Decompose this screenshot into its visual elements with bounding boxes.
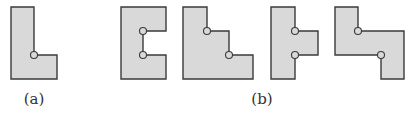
diagram-canvas (0, 0, 411, 119)
hinge-icon (140, 28, 147, 35)
panel-label-a: (a) (24, 90, 45, 108)
l-shape-piece (11, 7, 57, 79)
hinge-icon (355, 28, 362, 35)
c-shape-piece (121, 7, 166, 79)
hinge-icon (31, 52, 38, 59)
panel-b (121, 7, 404, 79)
hinge-icon (226, 52, 233, 59)
hinge-icon (204, 28, 211, 35)
hinge-icon (140, 52, 147, 59)
t-shape-piece (271, 7, 318, 79)
panel-label-b: (b) (251, 90, 272, 108)
hinge-icon (292, 52, 299, 59)
panel-a (11, 7, 57, 79)
hinge-icon (378, 52, 385, 59)
z-shape-piece (335, 7, 404, 79)
hinge-icon (292, 28, 299, 35)
stair-shape-piece (183, 7, 253, 79)
